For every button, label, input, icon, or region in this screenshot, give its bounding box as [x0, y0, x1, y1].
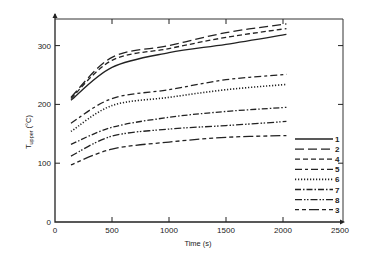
- svg-text:Tupper(°C): Tupper(°C): [24, 114, 34, 149]
- y-tick-label: 300: [38, 42, 52, 51]
- x-tick-label: 0: [53, 226, 58, 235]
- line-chart: 050010001500200025000100200300 12456783 …: [0, 0, 365, 261]
- x-tick-label: 500: [105, 226, 119, 235]
- legend-label-6: 6: [335, 175, 340, 184]
- legend-label-1: 1: [335, 135, 340, 144]
- y-tick-label: 200: [38, 100, 52, 109]
- y-axis-title-unit: (°C): [24, 114, 33, 128]
- y-axis-title-sub: upper: [28, 130, 34, 144]
- legend-label-7: 7: [335, 186, 340, 195]
- legend-label-4: 4: [335, 155, 340, 164]
- legend: 12456783: [295, 135, 340, 215]
- series-line-6: [71, 84, 286, 131]
- axes-lines: [55, 14, 343, 222]
- y-axis-arrow-icon: [53, 13, 58, 18]
- y-axis-title: Tupper(°C): [24, 114, 34, 149]
- y-tick-label: 0: [47, 218, 52, 227]
- series-line-1: [71, 34, 286, 100]
- x-tick-label: 1000: [160, 226, 178, 235]
- legend-label-5: 5: [335, 165, 340, 174]
- data-series: [71, 24, 286, 165]
- x-axis-title: Time (s): [184, 239, 212, 248]
- legend-label-3: 3: [335, 206, 340, 215]
- x-tick-label: 2500: [331, 226, 349, 235]
- x-tick-label: 2000: [274, 226, 292, 235]
- plot-frame: [53, 13, 346, 225]
- plot-border: [55, 19, 343, 222]
- legend-label-2: 2: [335, 145, 340, 154]
- legend-label-8: 8: [335, 196, 340, 205]
- y-tick-label: 100: [38, 159, 52, 168]
- x-tick-label: 1500: [217, 226, 235, 235]
- series-line-3: [71, 136, 286, 165]
